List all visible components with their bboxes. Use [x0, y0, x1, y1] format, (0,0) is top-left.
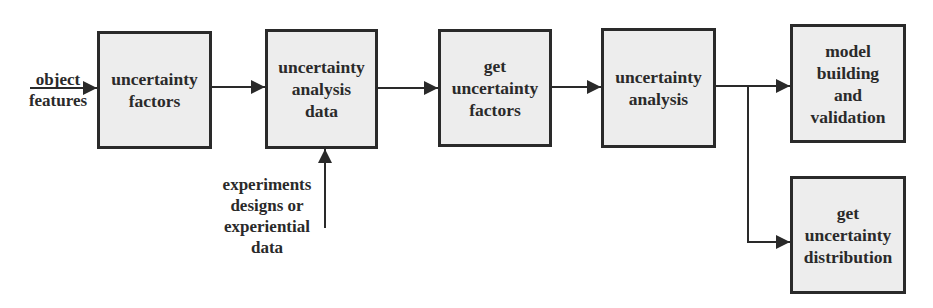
- input-label-object-features: object features: [22, 69, 94, 111]
- node-uncertainty-analysis-data: uncertainty analysis data: [265, 29, 378, 149]
- node-get-uncertainty-distribution: get uncertainty distribution: [790, 176, 906, 294]
- node-label: get uncertainty factors: [452, 55, 539, 121]
- input-label-experiments: experiments designs or experiential data: [212, 174, 322, 258]
- node-uncertainty-factors: uncertainty factors: [97, 31, 212, 149]
- flowchart-canvas: object features experiments designs or e…: [0, 0, 933, 308]
- node-uncertainty-analysis: uncertainty analysis: [601, 28, 716, 148]
- node-label: uncertainty factors: [111, 68, 198, 112]
- node-label: model building and validation: [811, 40, 886, 128]
- node-label: uncertainty analysis data: [278, 56, 365, 122]
- node-model-building-validation: model building and validation: [790, 24, 906, 143]
- arrow-n4-to-n6: [748, 86, 790, 242]
- node-label: uncertainty analysis: [615, 66, 702, 110]
- node-label: get uncertainty distribution: [804, 202, 893, 268]
- node-get-uncertainty-factors: get uncertainty factors: [438, 29, 552, 147]
